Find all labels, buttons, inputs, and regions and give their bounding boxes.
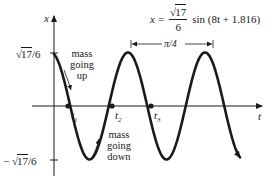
point-t1 (65, 103, 70, 108)
equation-lhs: x (150, 13, 155, 25)
t3-label: t3 (154, 110, 161, 124)
y-axis-label: x (44, 13, 49, 24)
x-axis-label: t (258, 111, 261, 122)
note-mass-going-up: massgoingup (70, 48, 94, 81)
equation-equals: = (158, 13, 164, 25)
t1-label: t1 (71, 110, 78, 124)
y-tick-top-label: √17/6 (16, 47, 41, 60)
period-label: π/4 (164, 39, 177, 49)
equation: x = √17 6 sin (8t + 1.816) (150, 4, 260, 33)
y-tick-bottom-label: − √17/6 (3, 154, 37, 167)
t2-label: t2 (115, 110, 122, 124)
equation-fraction: √17 6 (169, 4, 187, 33)
equation-denominator: 6 (175, 20, 181, 33)
note-mass-going-down: massgoingdown (107, 129, 131, 162)
point-t3 (148, 103, 153, 108)
equation-numerator: √17 (169, 4, 187, 20)
equation-rest: sin (8t + 1.816) (192, 13, 260, 25)
point-t2 (109, 103, 114, 108)
